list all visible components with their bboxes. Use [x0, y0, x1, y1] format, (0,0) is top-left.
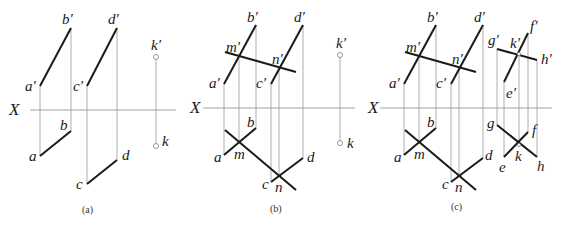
label-k-prime: k′ — [151, 37, 162, 53]
label-k-prime: k′ — [336, 35, 347, 51]
label-b: b — [60, 117, 68, 133]
label-d-prime: d′ — [108, 11, 120, 27]
label-a: a — [214, 149, 222, 165]
label-m-prime: m′ — [226, 39, 241, 55]
label-n: n — [455, 179, 463, 195]
point-k-front — [517, 52, 520, 55]
label-a-prime: a′ — [389, 75, 401, 91]
projection-figure: X a′ b′ c′ d′ k′ a b c d k (a) X — [0, 0, 561, 226]
label-h: h — [537, 158, 545, 174]
point-k-front — [338, 53, 343, 58]
label-n-prime: n′ — [452, 51, 464, 67]
x-axis-label: X — [8, 100, 20, 119]
label-m: m — [234, 146, 245, 162]
point-k-top — [517, 143, 520, 146]
label-k: k — [162, 133, 169, 149]
point-k-top — [154, 144, 159, 149]
label-a-prime: a′ — [209, 75, 221, 91]
label-n: n — [275, 179, 283, 195]
panel-a: X a′ b′ c′ d′ k′ a b c d k (a) — [8, 11, 176, 216]
label-c: c — [76, 176, 83, 192]
label-f-prime: f′ — [530, 18, 538, 34]
x-axis-label: X — [367, 98, 379, 117]
label-h-prime: h′ — [541, 51, 553, 67]
label-m-prime: m′ — [406, 39, 421, 55]
label-d: d — [307, 149, 315, 165]
label-k: k — [347, 135, 354, 151]
label-e-prime: e′ — [506, 85, 517, 101]
caption-b: (b) — [270, 203, 282, 215]
label-b: b — [247, 114, 255, 130]
caption-a: (a) — [82, 204, 93, 216]
point-k-front — [154, 55, 159, 60]
panel-c: X a′ b′ c′ d′ m′ n′ g′ k′ f′ h′ e′ — [367, 9, 553, 213]
line-cd-front — [87, 28, 117, 86]
line-ab-front — [40, 28, 71, 86]
line-cd-top — [87, 160, 117, 184]
label-c-prime: c′ — [436, 75, 447, 91]
label-a-prime: a′ — [25, 78, 37, 94]
label-c: c — [262, 176, 269, 192]
label-n-prime: n′ — [272, 51, 284, 67]
label-d: d — [485, 147, 493, 163]
point-k-top — [338, 141, 343, 146]
caption-c: (c) — [451, 201, 462, 213]
label-c-prime: c′ — [256, 75, 267, 91]
label-g-prime: g′ — [488, 32, 500, 48]
label-b: b — [427, 114, 435, 130]
line-ab-top — [40, 131, 71, 156]
label-b-prime: b′ — [247, 9, 259, 25]
label-g: g — [487, 115, 495, 131]
label-m: m — [414, 146, 425, 162]
label-d-prime: d′ — [474, 9, 486, 25]
label-a: a — [29, 148, 37, 164]
label-d-prime: d′ — [294, 9, 306, 25]
label-d: d — [122, 147, 130, 163]
label-a: a — [394, 149, 402, 165]
label-c: c — [442, 176, 449, 192]
label-b-prime: b′ — [427, 9, 439, 25]
panel-b: X a′ b′ c′ d′ m′ n′ k′ a b m c n d k (b) — [189, 9, 355, 215]
x-axis-label: X — [189, 98, 201, 117]
label-k-prime: k′ — [510, 35, 521, 51]
label-k: k — [515, 148, 522, 164]
label-c-prime: c′ — [73, 78, 84, 94]
label-e: e — [499, 159, 506, 175]
label-b-prime: b′ — [62, 11, 74, 27]
